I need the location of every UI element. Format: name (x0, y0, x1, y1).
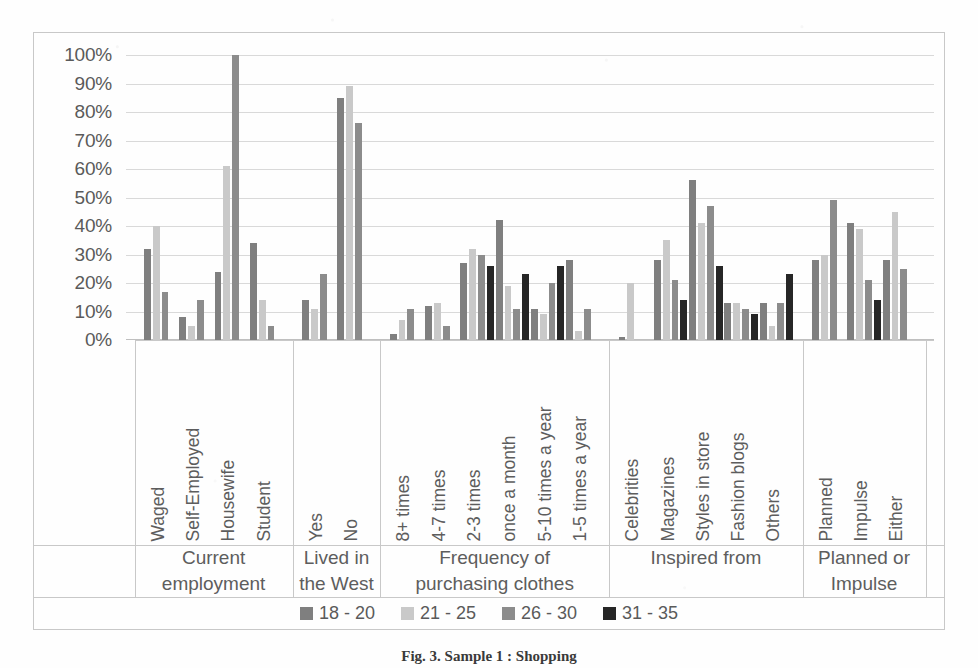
bar-category (723, 55, 758, 340)
chart-legend: 18 - 2021 - 2526 - 3031 - 35 (34, 603, 944, 624)
bar-category (811, 55, 846, 340)
bar (751, 314, 758, 340)
figure-caption: Fig. 3. Sample 1 : Shopping (0, 648, 978, 668)
bar-category (495, 55, 530, 340)
y-axis-tick-label: 20% (75, 272, 112, 294)
legend-item[interactable]: 26 - 30 (502, 603, 577, 624)
legend-band-separator (34, 597, 944, 598)
bar (425, 306, 432, 340)
bar-category (530, 55, 565, 340)
group-separator (293, 340, 294, 598)
category-band-separator (135, 340, 935, 341)
bar (197, 300, 204, 340)
bar (215, 272, 222, 340)
y-axis-tick-label: 90% (75, 73, 112, 95)
bar (153, 226, 160, 340)
bar (856, 229, 863, 340)
legend-label: 18 - 20 (319, 603, 375, 624)
y-axis-tick-label: 100% (64, 44, 112, 66)
bar (223, 166, 230, 340)
y-axis-tick-label: 60% (75, 158, 112, 180)
bar (900, 269, 907, 340)
bar-group (811, 55, 917, 340)
group-title-line: Inspired from (650, 547, 761, 568)
category-label: once a month (501, 435, 519, 541)
category-label: Celebrities (624, 458, 642, 541)
category-label: Magazines (659, 456, 677, 541)
bar-category (882, 55, 917, 340)
bar (259, 300, 266, 340)
chart-frame: 0%10%20%30%40%50%60%70%80%90%100% WagedS… (33, 32, 945, 630)
bar (549, 283, 556, 340)
bar-category (214, 55, 249, 340)
group-title-line: Planned or (818, 547, 910, 568)
bar (487, 266, 494, 340)
y-axis: 0%10%20%30%40%50%60%70%80%90%100% (34, 55, 120, 340)
bar (672, 280, 679, 340)
category-label: Impulse (853, 480, 871, 541)
bar (407, 309, 414, 340)
bar (478, 255, 485, 341)
category-label: Yes (307, 512, 325, 541)
legend-label: 21 - 25 (420, 603, 476, 624)
bar (522, 274, 529, 340)
bar-category (688, 55, 723, 340)
bar (460, 263, 467, 340)
bar (496, 220, 503, 340)
bar-category (249, 55, 284, 340)
legend-swatch-icon (603, 607, 616, 620)
y-axis-tick-label: 70% (75, 130, 112, 152)
bar (742, 309, 749, 340)
category-label: 4-7 times (430, 469, 448, 541)
bar (847, 223, 854, 340)
category-label: 1-5 times a year (571, 416, 589, 541)
bar-group (389, 55, 601, 340)
group-title: Currentemployment (135, 545, 293, 596)
legend-item[interactable]: 31 - 35 (603, 603, 678, 624)
bar-category (389, 55, 424, 340)
bar (883, 260, 890, 340)
bar (566, 260, 573, 340)
bar (724, 303, 731, 340)
bar (584, 309, 591, 340)
bar (302, 300, 309, 340)
bar (760, 303, 767, 340)
category-label: Student (255, 481, 273, 541)
y-axis-tick-label: 30% (75, 244, 112, 266)
y-axis-tick-label: 40% (75, 215, 112, 237)
y-axis-tick-label: 10% (75, 301, 112, 323)
bar (188, 326, 195, 340)
group-separator (926, 340, 927, 598)
category-label: Fashion blogs (730, 432, 748, 541)
category-label: 2-3 times (466, 469, 484, 541)
legend-item[interactable]: 21 - 25 (401, 603, 476, 624)
group-title-line: the West (299, 573, 374, 594)
bar (443, 326, 450, 340)
bar-category (846, 55, 881, 340)
bar (812, 260, 819, 340)
category-label: Waged (149, 486, 167, 541)
bar (716, 266, 723, 340)
group-separator (803, 340, 804, 598)
group-title: Planned orImpulse (803, 545, 926, 596)
bar-group (301, 55, 372, 340)
legend-item[interactable]: 18 - 20 (300, 603, 375, 624)
bar (505, 286, 512, 340)
bar (346, 86, 353, 340)
bar-category (618, 55, 653, 340)
group-title: Frequency ofpurchasing clothes (380, 545, 609, 596)
bar (680, 300, 687, 340)
category-label: Self-Employed (184, 427, 202, 541)
group-title-line: Lived in (304, 547, 370, 568)
bar (355, 123, 362, 340)
bar (399, 320, 406, 340)
bar-category (459, 55, 494, 340)
legend-swatch-icon (502, 607, 515, 620)
bar-group (143, 55, 284, 340)
category-label: Planned (817, 477, 835, 541)
bar-category (653, 55, 688, 340)
bar (337, 98, 344, 340)
bar (540, 314, 547, 340)
bar-category (759, 55, 794, 340)
y-axis-tick-label: 80% (75, 101, 112, 123)
